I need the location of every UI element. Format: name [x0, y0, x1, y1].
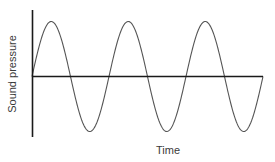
x-axis-label: Time: [156, 144, 180, 156]
sound-wave-diagram: Time Sound pressure: [0, 0, 275, 162]
y-axis-label: Sound pressure: [6, 35, 18, 113]
